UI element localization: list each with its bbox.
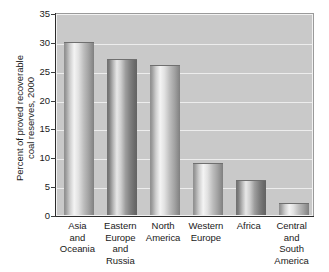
bar-chart-figure: Percent of proved recoverable coal reser…	[0, 0, 329, 272]
x-category-label-line: America	[264, 255, 320, 267]
gridline	[57, 73, 312, 74]
gridline	[57, 102, 312, 103]
y-tick-label: 25	[28, 67, 50, 77]
x-category-label-line: Europe	[178, 232, 234, 244]
y-tick-label: 30	[28, 38, 50, 48]
x-category-label: CentralandSouthAmerica	[264, 220, 320, 266]
y-tick-mark	[51, 158, 56, 159]
x-category-label-line: and	[264, 232, 320, 244]
bar	[107, 59, 137, 215]
y-axis-title-line-1: Percent of proved recoverable	[14, 55, 25, 181]
plot-area	[56, 14, 313, 216]
y-tick-mark	[51, 14, 56, 15]
y-tick-label: 15	[28, 124, 50, 134]
y-tick-label: 35	[28, 9, 50, 19]
x-category-label-line: Russia	[92, 255, 148, 267]
x-category-label-line: South	[264, 243, 320, 255]
gridline	[57, 159, 312, 160]
y-tick-label: 20	[28, 96, 50, 106]
y-tick-label: 0	[28, 211, 50, 221]
y-tick-label: 10	[28, 153, 50, 163]
bar	[193, 163, 223, 215]
bar	[150, 65, 180, 215]
gridline	[57, 130, 312, 131]
x-category-label-line: Central	[264, 220, 320, 232]
bar	[64, 42, 94, 215]
y-tick-mark	[51, 216, 56, 217]
gridline	[57, 188, 312, 189]
y-tick-mark	[51, 43, 56, 44]
y-axis-title-line-2: coal reserves, 2000	[25, 77, 36, 159]
x-axis-line	[55, 216, 314, 217]
y-tick-mark	[51, 72, 56, 73]
y-tick-mark	[51, 129, 56, 130]
x-category-label-line: and	[92, 243, 148, 255]
y-tick-mark	[51, 187, 56, 188]
bar	[279, 203, 309, 215]
gridline	[57, 44, 312, 45]
y-tick-label: 5	[28, 182, 50, 192]
y-tick-mark	[51, 101, 56, 102]
bar	[236, 180, 266, 215]
